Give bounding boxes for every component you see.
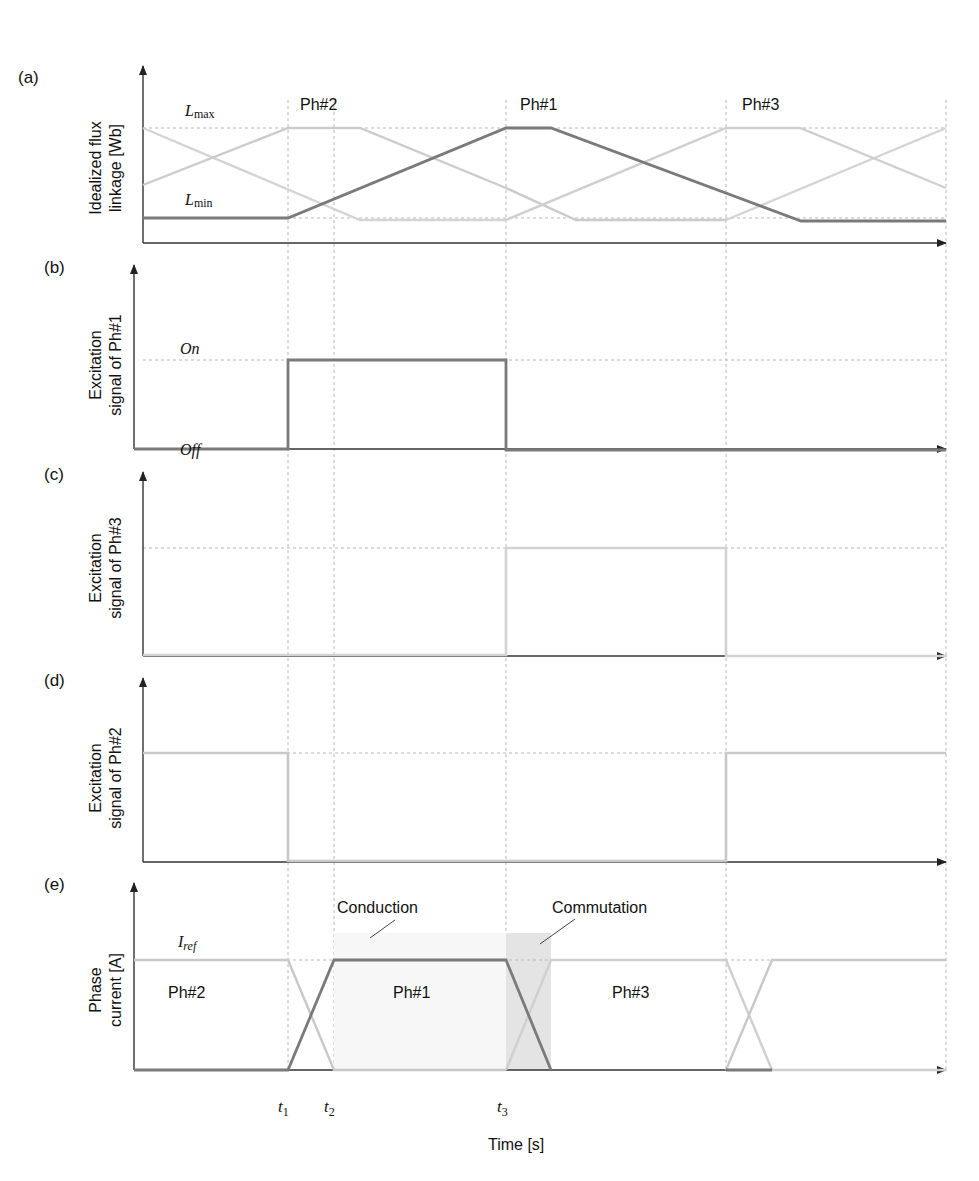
timing-diagram: (a) Idealized flux linkage [Wb] Lmax Lmi… — [0, 0, 979, 1181]
panel-b-label: (b) — [44, 258, 65, 277]
ph1-flux-label: Ph#1 — [520, 96, 557, 113]
ph2-flux-low — [506, 188, 726, 220]
ph3-current-label: Ph#3 — [612, 984, 649, 1001]
panel-b-ylabel-line2: signal of Ph#1 — [107, 314, 124, 416]
panel-a-flux-linkage: (a) Idealized flux linkage [Wb] Lmax Lmi… — [18, 66, 946, 243]
panel-e-ylabel-line1: Phase — [87, 967, 104, 1012]
ph1-flux — [143, 128, 946, 221]
lmin-label: Lmin — [184, 191, 213, 210]
panel-b-excitation-ph1: (b) Excitation signal of Ph#1 On Off — [44, 258, 946, 459]
ph2-flux — [143, 128, 506, 188]
panel-b-ylabel-line1: Excitation — [87, 330, 104, 399]
panel-d-ylabel-line1: Excitation — [87, 743, 104, 812]
panel-c-ylabel-line1: Excitation — [87, 533, 104, 602]
panel-a-label: (a) — [18, 68, 39, 87]
ph1-excitation-signal — [134, 360, 946, 450]
panel-d-excitation-ph2: (d) Excitation signal of Ph#2 — [44, 671, 946, 862]
panel-a-ylabel-line1: Idealized flux — [87, 121, 104, 214]
lmax-label: Lmax — [184, 102, 215, 121]
panel-a-ylabel-line2: linkage [Wb] — [107, 124, 124, 212]
ph2-current-return — [726, 960, 946, 1070]
panel-e-ylabel-line2: current [A] — [107, 953, 124, 1027]
iref-label: Iref — [177, 933, 198, 953]
ph2-current-label: Ph#2 — [168, 984, 205, 1001]
panel-d-label: (d) — [44, 671, 65, 690]
x-axis-label: Time [s] — [488, 1136, 544, 1153]
panel-e-phase-current: (e) Phase current [A] Conduction Commuta… — [44, 875, 946, 1070]
panel-c-label: (c) — [44, 465, 64, 484]
ph3-excitation-signal — [143, 548, 946, 656]
ph1-current-label: Ph#1 — [393, 984, 430, 1001]
t3-label: t3 — [497, 1097, 508, 1119]
panel-d-ylabel-line2: signal of Ph#2 — [107, 727, 124, 829]
commutation-leader-line — [540, 919, 575, 944]
ph2-excitation-signal — [143, 753, 946, 861]
ph3-flux-label: Ph#3 — [742, 96, 779, 113]
panel-c-ylabel-line2: signal of Ph#3 — [107, 517, 124, 619]
conduction-region — [334, 933, 506, 1070]
ph2-flux-label: Ph#2 — [300, 96, 337, 113]
t1-label: t1 — [278, 1097, 289, 1119]
panel-e-label: (e) — [44, 875, 65, 894]
commutation-region — [506, 933, 551, 1070]
time-markers: t1 t2 t3 Time [s] — [278, 1097, 544, 1153]
commutation-label: Commutation — [552, 899, 647, 916]
off-label: Off — [180, 441, 203, 459]
t2-label: t2 — [324, 1097, 335, 1119]
panel-c-excitation-ph3: (c) Excitation signal of Ph#3 — [44, 465, 946, 656]
on-label: On — [180, 340, 200, 357]
conduction-label: Conduction — [337, 899, 418, 916]
